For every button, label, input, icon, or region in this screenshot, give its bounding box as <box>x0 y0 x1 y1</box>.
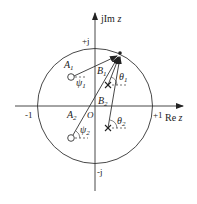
minus-one-label: -1 <box>25 110 33 120</box>
vector-A1 <box>74 56 117 76</box>
real-axis-label: Re z <box>165 112 183 123</box>
origin-label: O <box>87 110 94 120</box>
theta2-arc <box>110 120 117 128</box>
point-on-circle <box>118 51 122 55</box>
pole-1-icon <box>105 82 111 88</box>
plus-j-label: +j <box>82 36 90 46</box>
zero-1-icon <box>68 74 75 81</box>
label-A1: A1 <box>63 59 74 72</box>
label-theta1: θ1 <box>119 71 127 84</box>
minus-j-label: -j <box>97 167 103 177</box>
label-theta2: θ2 <box>117 115 126 128</box>
z-plane-diagram: jIm z Re z +j -j -1 +1 O A1 B1 B2 A2 ψ1 … <box>0 0 197 204</box>
zero-2-icon <box>68 135 75 142</box>
imag-axis-label: jIm z <box>100 13 121 24</box>
label-psi1: ψ1 <box>76 77 86 90</box>
label-A2: A2 <box>66 109 77 122</box>
label-B1: B1 <box>97 65 107 78</box>
label-psi2: ψ2 <box>80 124 90 137</box>
plus-one-label: +1 <box>153 110 163 120</box>
